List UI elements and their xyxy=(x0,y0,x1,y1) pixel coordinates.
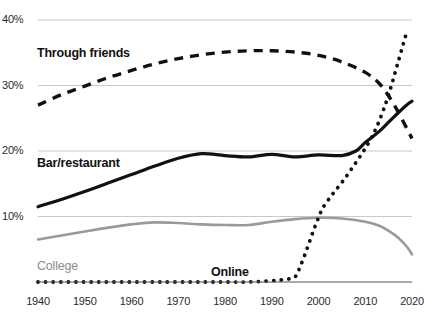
x-axis-tick-1950: 1950 xyxy=(73,295,97,307)
y-axis-tick-10%: 10% xyxy=(2,210,23,222)
series-line-college xyxy=(38,218,412,255)
x-axis-tick-1940: 1940 xyxy=(26,295,50,307)
series-label-college: College xyxy=(37,259,78,273)
x-axis-tick-1960: 1960 xyxy=(120,295,144,307)
series-line-bar-restaurant xyxy=(38,101,412,206)
series-label-bar-restaurant: Bar/restaurant xyxy=(37,156,120,170)
x-axis-tick-1980: 1980 xyxy=(213,295,237,307)
x-axis-tick-2000: 2000 xyxy=(307,295,331,307)
x-axis-tick-1990: 1990 xyxy=(260,295,284,307)
series-label-online: Online xyxy=(211,265,249,279)
series-label-through-friends: Through friends xyxy=(37,46,130,60)
x-axis-tick-2020: 2020 xyxy=(400,295,424,307)
series-line-through-friends xyxy=(38,51,412,139)
y-axis-tick-40%: 40% xyxy=(2,13,23,25)
y-axis-tick-30%: 30% xyxy=(2,79,23,91)
y-axis-tick-20%: 20% xyxy=(2,144,23,156)
x-axis-tick-1970: 1970 xyxy=(166,295,190,307)
x-axis-tick-2010: 2010 xyxy=(353,295,377,307)
